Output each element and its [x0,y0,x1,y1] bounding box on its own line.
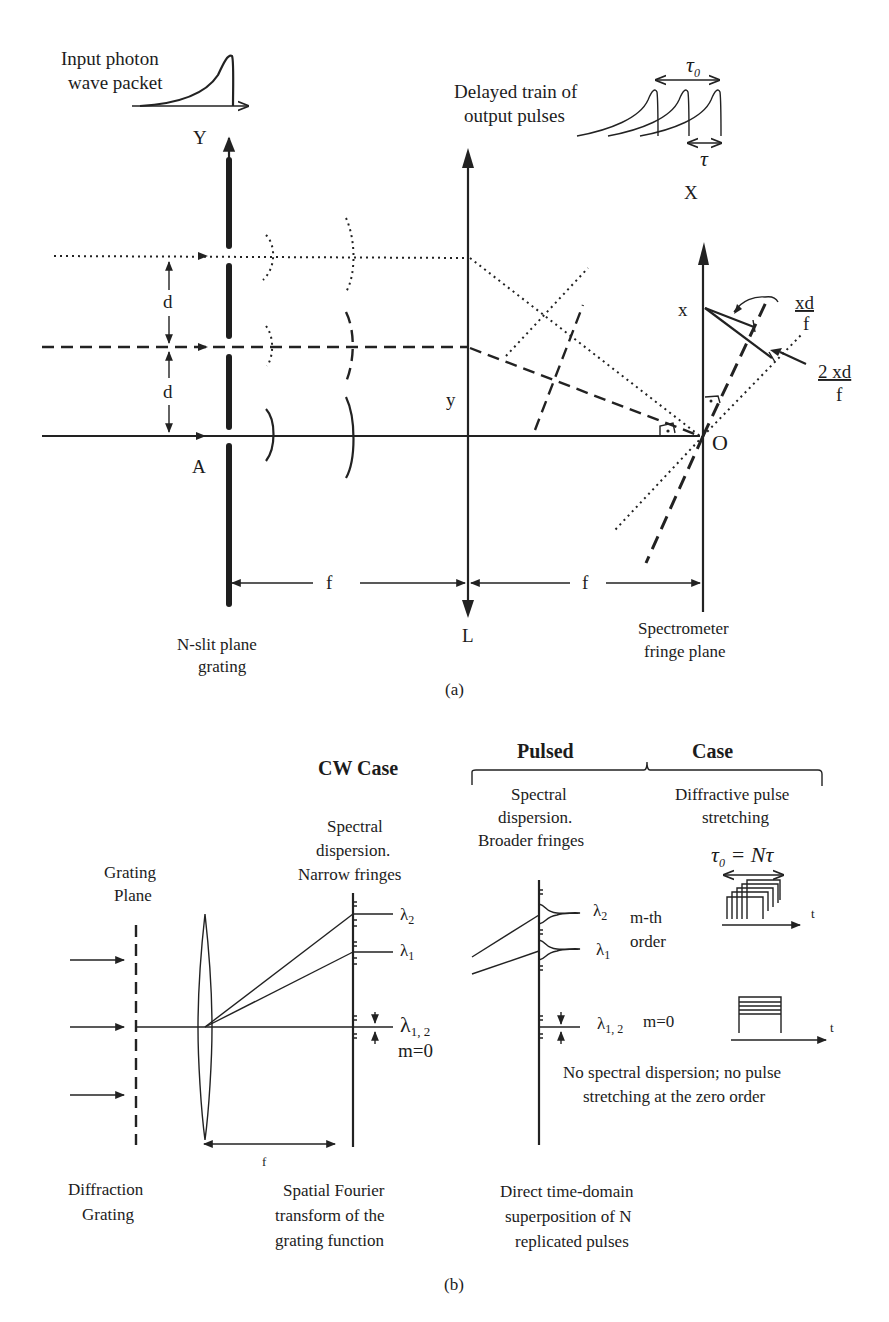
stretched-pulse-schematic: τ0 = Nτ t t [711,842,834,1040]
mth-line2: order [630,932,666,951]
pulsed-title: Pulsed [517,740,574,762]
rays: d d A [42,218,700,478]
grating-label-line2: grating [198,657,247,676]
pulsed-desc-line1: Spectral [511,785,567,804]
caption-b: (b) [444,1275,464,1294]
output-pulse-train: Delayed train of output pulses τ0 τ [454,52,721,171]
panel-a: Input photon wave packet Delayed train o… [42,48,852,699]
fringe-label-line2: fringe plane [644,642,726,661]
tau-label: τ [700,146,709,171]
fourier-line2: transform of the [275,1206,385,1225]
cw-desc-line3: Narrow fringes [298,865,401,884]
fourier-line3: grating function [275,1231,385,1250]
cw-optics: f λ2 λ1 λ1, 2 m=0 [70,893,433,1169]
mth-line1: m-th [630,908,663,927]
tau-equation: τ0 = Nτ [711,842,774,870]
cw-lambda12: λ1, 2 [400,1012,430,1039]
pulsed-lambda2: λ2 [593,901,607,923]
cw-m0: m=0 [398,1040,433,1061]
stretch-line2: stretching [702,808,770,827]
cw-lambda1: λ1 [400,941,414,963]
cw-case-title: CW Case [318,757,398,779]
t-axis-label-2: t [830,1020,834,1035]
direct-line2: superposition of N [505,1207,632,1226]
pulsed-desc-line3: Broader fringes [478,831,584,850]
axis-Y-label: Y [193,127,207,148]
lens-L: y L [446,148,474,646]
caption-a: (a) [445,680,464,699]
x-label: x [678,299,688,320]
diffraction-line1: Diffraction [68,1180,144,1199]
L-label: L [462,625,474,646]
input-label-line1: Input photon [61,48,159,69]
d-label-1: d [163,291,173,312]
axis-X-label: X [684,182,698,203]
fringe-plane: X x O xd f 2 xd f Spectrometer fring [615,182,852,661]
output-label-line2: output pulses [464,105,565,126]
grating-label-line1: N-slit plane [177,635,257,654]
pulsed-lambda12: λ1, 2 [597,1014,623,1036]
pulsed-m0: m=0 [643,1012,674,1031]
case-title: Case [692,740,733,762]
frac-xd-denominator: f [803,313,810,334]
cw-desc-line2: dispersion. [316,841,390,860]
diffraction-line2: Grating [82,1205,134,1224]
point-A-label: A [192,456,206,477]
frac-2xd-denominator: f [836,384,843,405]
zero-order-line2: stretching at the zero order [583,1087,766,1106]
pulsed-desc-line2: dispersion. [498,808,572,827]
n-slit-grating: Y N-slit plane grating [177,127,257,676]
f-label-b: f [262,1154,267,1169]
fourier-line1: Spatial Fourier [283,1181,385,1200]
panel-b: CW Case Pulsed Case Spectral dispersion.… [68,740,834,1294]
input-wave-packet: Input photon wave packet [61,48,248,106]
grating-plane-line1: Grating [104,863,156,882]
d-label-2: d [163,381,173,402]
zero-order-line1: No spectral dispersion; no pulse [563,1063,781,1082]
tau0-label: τ0 [686,52,700,80]
direct-line1: Direct time-domain [500,1182,634,1201]
f-label-2: f [582,572,589,593]
cw-lambda2: λ2 [400,905,414,927]
stretch-line1: Diffractive pulse [675,785,789,804]
output-label-line1: Delayed train of [454,81,578,102]
frac-xd-numerator: xd [795,292,815,313]
pulsed-brace [472,762,822,786]
frac-2xd-numerator: 2 xd [818,361,852,382]
input-label-line2: wave packet [68,72,163,93]
focal-distances: f f [232,572,700,593]
t-axis-label-1: t [811,906,815,921]
direct-line3: replicated pulses [515,1232,629,1251]
f-label-1: f [326,572,333,593]
fringe-label-line1: Spectrometer [638,619,729,638]
cw-desc-line1: Spectral [327,817,383,836]
y-label: y [446,389,456,410]
grating-plane-line2: Plane [114,886,152,905]
point-O-label: O [712,430,728,455]
figure: Input photon wave packet Delayed train o… [0,0,889,1322]
focused-rays [470,258,700,436]
pulsed-lambda1: λ1 [596,940,610,962]
